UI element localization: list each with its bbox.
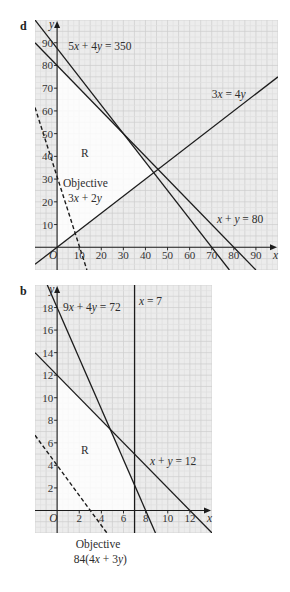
figure: 102030405060708090102030405060708090xyO5… — [0, 0, 290, 592]
y-tick-label: 4 — [48, 459, 54, 471]
y-tick-label: 80 — [42, 59, 54, 71]
x-tick-label: 90 — [250, 249, 262, 261]
y-tick-label: 30 — [42, 173, 54, 185]
x-tick-label: 30 — [118, 249, 130, 261]
annotation-9x-4y-72: 9x + 4y = 72 — [63, 301, 121, 314]
x-tick-label: 50 — [162, 249, 174, 261]
chart-b: 2468101224681012141618xyO9x + 4y = 72x =… — [20, 283, 213, 566]
x-tick-label: 8 — [143, 512, 149, 524]
annotation-3x-4y: 3x = 4y — [212, 88, 247, 101]
y-tick-label: 60 — [42, 105, 54, 117]
y-tick-label: 18 — [42, 302, 54, 314]
annotation-3x-2y: 3x + 2y — [68, 192, 103, 205]
x-tick-label: 6 — [121, 512, 127, 524]
y-tick-label: 20 — [42, 196, 54, 208]
y-axis-label: y — [48, 18, 55, 31]
y-tick-label: 6 — [48, 437, 54, 449]
y-tick-label: 50 — [42, 128, 54, 140]
x-tick-label: 4 — [99, 512, 105, 524]
annotation-5x-4y-350: 5x + 4y = 350 — [68, 40, 132, 53]
x-tick-label: 2 — [77, 512, 83, 524]
origin-label: O — [49, 249, 58, 261]
y-axis-label: y — [48, 283, 55, 296]
annotation-r: R — [81, 147, 89, 159]
annotation-x-7: x = 7 — [138, 295, 162, 307]
y-tick-label: 2 — [48, 482, 54, 494]
y-tick-label: 10 — [42, 392, 54, 404]
x-tick-label: 80 — [228, 249, 240, 261]
y-tick-label: 70 — [42, 82, 54, 94]
panel-label: d — [20, 19, 27, 33]
x-tick-label: 20 — [96, 249, 108, 261]
annotation-x-y-80: x + y = 80 — [216, 213, 263, 226]
y-tick-label: 16 — [42, 324, 54, 336]
y-tick-label: 10 — [42, 219, 54, 231]
x-tick-label: 60 — [184, 249, 196, 261]
annotation-objective: Objective — [76, 538, 121, 551]
y-tick-label: 14 — [42, 347, 54, 359]
y-tick-label: 40 — [42, 150, 54, 162]
x-tick-label: 10 — [74, 249, 86, 261]
origin-label: O — [49, 512, 58, 524]
x-tick-label: 12 — [184, 512, 195, 524]
x-axis-label: x — [206, 512, 213, 524]
x-tick-label: 10 — [162, 512, 174, 524]
x-tick-label: 70 — [206, 249, 218, 261]
x-axis-label: x — [272, 249, 279, 261]
annotation-x-y-12: x + y = 12 — [149, 455, 196, 468]
y-tick-label: 8 — [48, 414, 54, 426]
x-tick-label: 40 — [140, 249, 152, 261]
panel-label: b — [20, 284, 27, 298]
y-tick-label: 90 — [42, 37, 54, 49]
chart-d: 102030405060708090102030405060708090xyO5… — [20, 18, 279, 270]
annotation-r: R — [81, 444, 89, 456]
annotation-84-4x-3y: 84(4x + 3y) — [74, 553, 127, 566]
annotation-objective: Objective — [63, 177, 108, 190]
y-tick-label: 12 — [42, 369, 53, 381]
